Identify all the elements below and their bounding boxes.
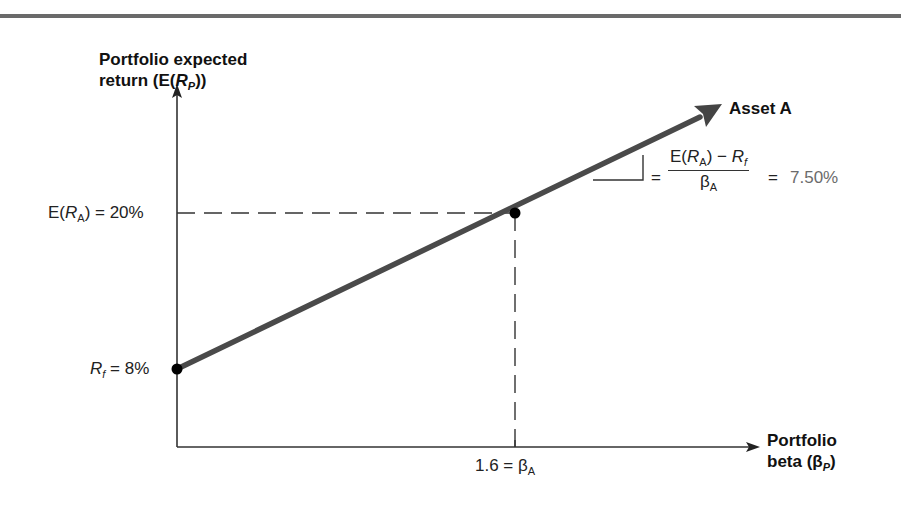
y-title-var: R — [176, 71, 188, 90]
slope-eq-sign-1: = — [651, 168, 661, 188]
point-rf — [172, 364, 183, 375]
num-var2: R — [732, 147, 744, 166]
rf-post: = 8% — [105, 359, 149, 378]
y-title-pre: return (E( — [99, 71, 176, 90]
den-sub: A — [710, 181, 717, 193]
slope-value: 7.50% — [790, 168, 838, 188]
y-axis-title-line1: Portfolio expected — [99, 49, 247, 70]
num-sub2: f — [744, 156, 747, 168]
y-axis-title: Portfolio expected return (E(RP)) — [99, 49, 247, 97]
era-pre: E( — [48, 203, 65, 222]
x-title-pre: beta (β — [767, 452, 823, 471]
beta-pre: 1.6 = β — [475, 456, 528, 475]
x-axis-title-line1: Portfolio — [767, 430, 837, 451]
num-mid: ) − — [707, 147, 732, 166]
x-title-post: ) — [830, 452, 836, 471]
era-sub: A — [77, 212, 84, 224]
series-label-asset-a: Asset A — [729, 98, 792, 119]
point-asset-a — [510, 208, 521, 219]
num-pre: E( — [670, 147, 687, 166]
num-sub: A — [699, 156, 706, 168]
era-post: ) = 20% — [85, 203, 144, 222]
y-label-risk-free: Rf = 8% — [90, 359, 149, 380]
x-title-sub: P — [823, 461, 830, 473]
beta-sub: A — [528, 465, 535, 477]
x-axis-title: Portfolio beta (βP) — [767, 430, 837, 478]
x-axis-title-line2: beta (βP) — [767, 451, 837, 478]
slope-fraction-denominator: βA — [668, 171, 749, 193]
slope-fraction: E(RA) − Rf βA — [668, 147, 749, 193]
slope-fraction-numerator: E(RA) − Rf — [668, 147, 749, 171]
slope-eq-sign-2: = — [768, 168, 778, 188]
rf-var: R — [90, 359, 102, 378]
y-label-expected-return-a: E(RA) = 20% — [48, 203, 144, 224]
era-var: R — [65, 203, 77, 222]
y-axis-title-line2: return (E(RP)) — [99, 70, 247, 97]
y-title-post: )) — [195, 71, 206, 90]
den-beta: β — [700, 172, 710, 191]
x-label-beta-a: 1.6 = βA — [475, 456, 535, 477]
sml-line — [177, 117, 700, 369]
num-var: R — [687, 147, 699, 166]
